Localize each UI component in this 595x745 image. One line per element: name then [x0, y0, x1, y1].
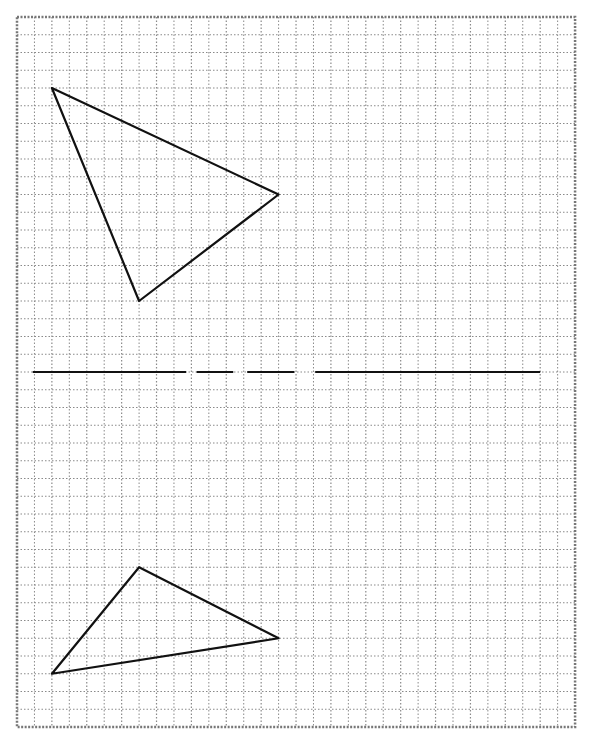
shapes-layer: [52, 88, 279, 674]
grid-diagram: [0, 0, 595, 745]
